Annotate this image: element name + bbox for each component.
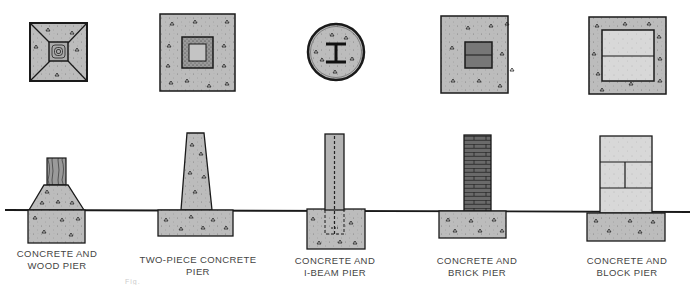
faint-caption: Fig. [125,278,141,285]
label-line1: CONCRETE AND [17,248,97,260]
label-line1: CONCRETE AND [437,255,517,267]
label-line2: BRICK PIER [437,267,517,279]
label-line1: CONCRETE AND [295,255,375,267]
elevation-concrete-brick [439,135,506,238]
label-concrete-block: CONCRETE AND BLOCK PIER [587,255,667,279]
label-concrete-ibeam: CONCRETE AND I-BEAM PIER [295,255,375,279]
plan-two-piece-concrete [160,14,235,91]
label-line2: BLOCK PIER [587,267,667,279]
label-line2: WOOD PIER [17,260,97,272]
label-line2: PIER [140,266,257,278]
elevation-concrete-ibeam [307,134,365,249]
label-line1: CONCRETE AND [587,255,667,267]
plan-concrete-brick [441,16,514,93]
elevation-two-piece-concrete [158,133,233,236]
label-two-piece-concrete: TWO-PIECE CONCRETE PIER [140,254,257,278]
plan-concrete-ibeam [308,24,364,80]
label-concrete-wood: CONCRETE AND WOOD PIER [17,248,97,272]
elevation-concrete-wood [28,158,85,243]
label-line2: I-BEAM PIER [295,267,375,279]
label-concrete-brick: CONCRETE AND BRICK PIER [437,255,517,279]
label-line1: TWO-PIECE CONCRETE [140,254,257,266]
pier-diagram [0,0,697,285]
plan-concrete-wood [30,23,87,81]
elevation-concrete-block [587,136,665,241]
plan-concrete-block [589,17,666,94]
